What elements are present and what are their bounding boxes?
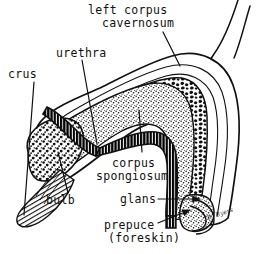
label-prepuce-line2: (foreskin) [108,232,180,245]
label-left-corpus-cavernosum: left corpuscavernosum [88,4,174,29]
label-glans: glans [120,193,156,206]
label-prepuce-line1: prepuce [104,218,155,232]
label-corpus-spongiosum-line2: spongiosum [96,170,168,183]
label-left-corpus-cavernosum-line2: cavernosum [88,17,174,30]
label-prepuce: prepuce(foreskin) [104,219,180,244]
label-bulb: bulb [46,194,75,207]
figure-page: left corpuscavernosum urethra crus corpu… [0,0,256,254]
label-corpus-spongiosum-line1: corpus [112,156,155,170]
label-crus: crus [8,68,37,81]
label-urethra: urethra [56,47,107,60]
label-corpus-spongiosum: corpusspongiosum [112,157,168,182]
label-left-corpus-cavernosum-line1: left corpus [88,3,167,17]
